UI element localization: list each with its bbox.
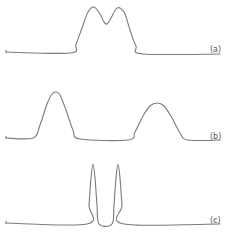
- panel-a: (a): [6, 7, 221, 55]
- panel-c: (c): [6, 164, 221, 226]
- panel-b: (b): [6, 92, 221, 141]
- trace-c-line: [6, 164, 220, 226]
- trace-a-line: [6, 7, 220, 55]
- panel-label-c: (c): [210, 216, 221, 225]
- panel-label-a: (a): [210, 45, 221, 54]
- panel-label-b: (b): [210, 132, 221, 141]
- peak-resolution-figure: (a) (b) (c): [0, 0, 229, 233]
- trace-b-line: [6, 92, 220, 141]
